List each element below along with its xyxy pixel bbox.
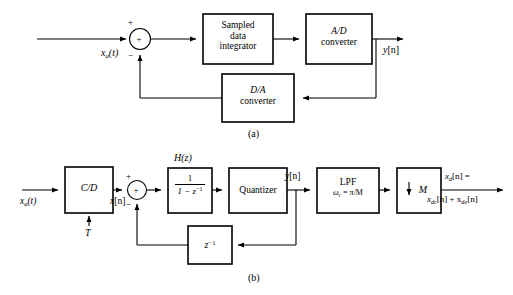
block-downsampler: M xyxy=(408,184,438,195)
block-ad-converter: A/D converter xyxy=(306,26,372,47)
summer-a-plus-sign: + xyxy=(128,18,133,27)
block-label-line2: data xyxy=(203,31,273,42)
block-label-line1: D/A xyxy=(222,85,294,96)
summer-b-minus-sign: − xyxy=(126,200,131,209)
summer-b-operator: + xyxy=(134,186,139,195)
diagram-b-output-label-line1: xd[n] = xyxy=(445,172,470,182)
diagram-b-output-label-line2: xdc[n] + xde[n] xyxy=(427,195,478,205)
diagram-a-output-label: y[n] xyxy=(383,45,399,56)
block-label-line2: converter xyxy=(222,96,294,107)
transfer-function-label: H(z) xyxy=(174,153,192,164)
lpf-cutoff: ωc = π/M xyxy=(317,189,379,198)
downsample-factor: M xyxy=(419,184,427,195)
figure-root: xa(t) + + − Sampled data integrator A/D … xyxy=(0,0,513,295)
block-cd-converter: C/D xyxy=(65,182,113,193)
block-sampled-data-integrator: Sampled data integrator xyxy=(203,20,273,52)
caption-b: (b) xyxy=(248,272,260,283)
block-label-line1: A/D xyxy=(306,26,372,37)
block-da-converter: D/A converter xyxy=(222,85,294,106)
summer-a-operator: + xyxy=(137,35,142,44)
diagram-a-input-label: xa(t) xyxy=(101,48,118,59)
block-quantizer: Quantizer xyxy=(229,185,287,196)
block-lowpass-filter: LPF ωc = π/M xyxy=(317,177,379,198)
block-integrator-hz: 1 1 − z−1 xyxy=(168,174,212,196)
block-label-line1: Sampled xyxy=(203,20,273,31)
summer-a-minus-sign: − xyxy=(128,51,133,60)
block-label-line2: converter xyxy=(306,37,372,48)
quantizer-output-label: y[n] xyxy=(285,172,300,182)
hz-numerator: 1 xyxy=(175,174,204,183)
caption-a: (a) xyxy=(248,128,259,139)
summer-b-plus-sign: + xyxy=(126,172,131,181)
lpf-title: LPF xyxy=(317,177,379,188)
block-label-line3: integrator xyxy=(203,41,273,52)
hz-denominator: 1 − z−1 xyxy=(175,186,204,196)
diagram-b-input-label: xa(t) xyxy=(20,197,36,208)
block-unit-delay: z−1 xyxy=(188,239,232,250)
cd-output-label: x[n] xyxy=(110,197,125,207)
clock-period-label: T xyxy=(85,228,91,239)
